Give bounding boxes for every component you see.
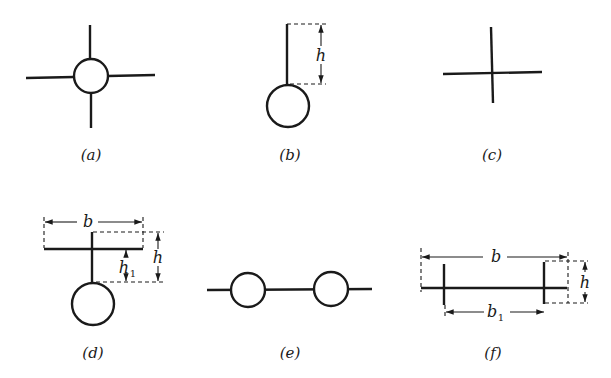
panel-c: (c) (443, 27, 542, 164)
caption-f: (f) (484, 344, 501, 362)
caption-d: (d) (82, 344, 103, 362)
circle-member (267, 85, 309, 127)
label-b: b (83, 212, 93, 231)
circle-member (72, 283, 114, 325)
cross-vertical (491, 27, 493, 103)
caption-a: (a) (81, 146, 102, 164)
panel-d: b h h 1 (d) (44, 212, 164, 362)
circle-member (74, 59, 108, 93)
label-h1: h (119, 258, 129, 277)
label-b1-subscript: 1 (498, 312, 504, 323)
panel-a: (a) (26, 25, 155, 164)
caption-c: (c) (482, 146, 502, 164)
caption-e: (e) (280, 344, 301, 362)
circle-member-right (314, 272, 348, 306)
label-b: b (491, 247, 501, 266)
label-h: h (153, 248, 163, 267)
panel-e: (e) (207, 272, 372, 362)
panel-b: h (b) (267, 24, 326, 164)
label-h: h (580, 273, 590, 292)
figure-canvas: (a) h (b) (c) b h h 1 (d) (0, 0, 611, 378)
panel-f: b h b 1 (f) (421, 247, 590, 362)
label-h1-subscript: 1 (130, 268, 136, 279)
circle-member-left (231, 273, 265, 307)
arm-right (108, 75, 155, 76)
caption-b: (b) (279, 146, 300, 164)
label-h: h (316, 46, 326, 65)
label-b1: b (487, 302, 497, 321)
arm-left (26, 77, 74, 78)
